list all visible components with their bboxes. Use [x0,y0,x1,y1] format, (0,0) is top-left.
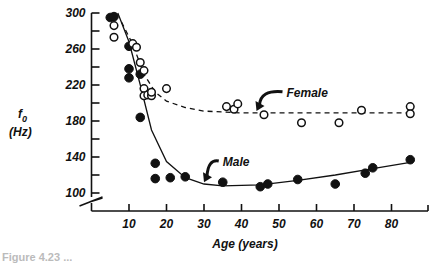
y-tick-label: 300 [65,6,85,20]
arrow-icon [260,91,283,105]
male-data-point [263,180,272,189]
y-tick-label: 180 [65,114,85,128]
male-data-point [406,155,415,164]
f0-by-age-chart: 1001401802202603001020304050607080Age (y… [0,0,436,263]
y-axis-unit: (Hz) [9,125,32,139]
axes: 1001401802202603001020304050607080Age (y… [9,6,428,251]
x-tick-label: 80 [385,217,399,231]
male-data-point [166,173,175,182]
figure-caption: Figure 4.23 ... [2,251,72,263]
female-data-point [298,119,306,127]
x-tick-label: 60 [310,217,324,231]
female-data-point [148,88,156,96]
female-data-point [110,34,118,42]
male-data-point [181,173,190,182]
female-data-point [223,103,231,111]
male-data-point [368,164,377,173]
male-data-point [331,180,340,189]
y-tick-label: 220 [64,78,85,92]
male-data-point [110,12,119,21]
female-data-point [406,110,414,118]
male-data-point [151,159,160,168]
male-data-point [125,65,134,74]
male-fit-line [118,13,411,186]
x-tick-label: 10 [122,217,136,231]
male-data-point [151,174,160,183]
y-tick-label: 100 [65,186,85,200]
y-tick-label: 140 [65,150,85,164]
arrow-icon [207,161,219,176]
female-data-point [260,111,268,119]
male-data-point [125,74,134,83]
female-data-point [133,43,141,51]
x-tick-label: 70 [347,217,361,231]
y-tick-label: 260 [64,42,85,56]
female-data-point [163,85,171,93]
female-data-point [136,59,144,67]
annotations: FemaleMale [203,86,328,183]
male-label: Male [223,155,250,169]
y-axis-title: f0 [18,107,27,124]
male-data-point [136,113,145,122]
male-data-point [293,175,302,184]
x-tick-label: 20 [159,217,174,231]
female-data-point [335,119,343,127]
female-data-point [234,100,242,108]
x-tick-label: 50 [272,217,286,231]
x-tick-label: 40 [234,217,249,231]
x-axis-title: Age (years) [211,237,277,251]
female-fit-line [122,22,411,113]
female-data-point [110,22,118,30]
female-data-point [140,67,148,75]
x-tick-label: 30 [197,217,211,231]
female-label: Female [287,86,329,100]
fit-lines [118,13,411,186]
male-data-point [218,178,227,187]
female-data-point [358,106,366,114]
male-data-point [361,169,370,178]
